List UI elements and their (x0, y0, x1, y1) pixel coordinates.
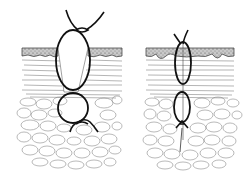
suture-illustration (0, 0, 252, 183)
right-panel (143, 30, 242, 170)
right-suture-lower-loop (174, 92, 190, 122)
right-bottom-thread (180, 128, 182, 152)
left-bottom-knot (70, 120, 98, 132)
left-fat-layer (17, 96, 122, 169)
right-dermis-layer (146, 60, 234, 98)
diagram-svg (0, 0, 252, 183)
left-panel (17, 10, 122, 169)
left-incision (58, 48, 88, 92)
right-bottom-knot (176, 121, 188, 128)
left-top-knot (66, 10, 104, 32)
right-fat-layer (143, 97, 242, 170)
